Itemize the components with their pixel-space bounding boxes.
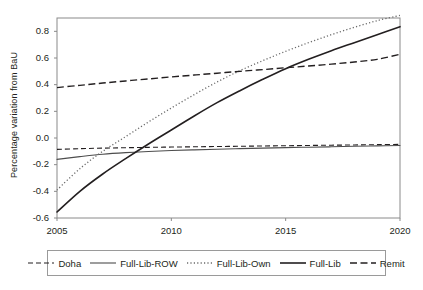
legend-label: Full-Lib-Own xyxy=(217,258,271,269)
series-line-full-lib-own xyxy=(57,15,400,190)
y-tick-label: 0.2 xyxy=(19,105,49,116)
x-tick-label: 2020 xyxy=(380,225,420,236)
y-tick-label: 0.4 xyxy=(19,78,49,89)
series-line-full-lib xyxy=(57,27,400,212)
series-line-remit xyxy=(57,54,400,87)
legend-label: Full-Lib xyxy=(310,258,341,269)
legend-label: Remit xyxy=(380,258,405,269)
x-tick-label: 2010 xyxy=(151,225,191,236)
y-tick-label: 0.8 xyxy=(19,25,49,36)
legend-swatch-remit xyxy=(350,259,376,267)
x-tick-label: 2015 xyxy=(266,225,306,236)
y-tick-label: -0.4 xyxy=(19,185,49,196)
legend-label: Doha xyxy=(58,258,81,269)
line-chart-plot xyxy=(0,0,423,248)
plot-frame xyxy=(57,18,400,218)
legend-label: Full-Lib-ROW xyxy=(120,258,178,269)
y-tick-label: 0.6 xyxy=(19,52,49,63)
y-tick-label: 0.0 xyxy=(19,132,49,143)
x-tick-label: 2005 xyxy=(37,225,77,236)
legend-swatch-full-lib-own xyxy=(187,259,213,267)
chart-figure: Percentage variation from BaU -0.6-0.4-0… xyxy=(0,0,423,290)
legend-item[interactable]: Doha xyxy=(28,258,81,269)
legend-swatch-full-lib xyxy=(280,259,306,267)
legend-item[interactable]: Full-Lib-ROW xyxy=(90,258,178,269)
chart-legend: DohaFull-Lib-ROWFull-Lib-OwnFull-LibRemi… xyxy=(47,250,386,276)
legend-item[interactable]: Full-Lib xyxy=(280,258,341,269)
legend-swatch-full-lib-row xyxy=(90,259,116,267)
y-tick-label: -0.6 xyxy=(19,212,49,223)
y-tick-label: -0.2 xyxy=(19,158,49,169)
legend-item[interactable]: Full-Lib-Own xyxy=(187,258,271,269)
legend-item[interactable]: Remit xyxy=(350,258,405,269)
legend-swatch-doha xyxy=(28,259,54,267)
